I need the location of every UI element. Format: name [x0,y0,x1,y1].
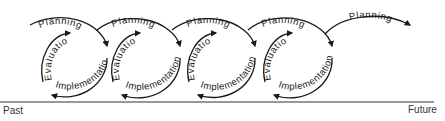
evaluation-label: Evaluation [0,0,137,82]
implementation-label: Implementation [277,54,334,92]
final-planning-stage: Planning [325,9,410,34]
planning-label: Planning [37,15,85,31]
planning-cycle-diagram: Planning Evaluation Implementation Plann… [0,0,445,121]
planning-label: Planning [260,14,308,30]
implementation-label: Implementation [199,55,257,92]
evaluation-label: Evaluation [0,0,69,82]
planning-label: Planning [348,9,394,24]
planning-arc [248,18,332,46]
past-label: Past [3,105,23,116]
implementation-label: Implementation [124,55,182,92]
future-label: Future [408,104,437,115]
implementation-label: Implementation [0,0,110,92]
cycle-1: Planning Evaluation Implementation [0,0,110,97]
planning-label: Planning [110,14,158,30]
planning-label: Planning [185,14,233,30]
